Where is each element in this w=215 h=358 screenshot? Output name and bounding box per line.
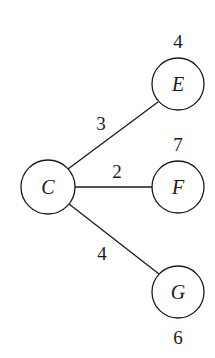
node-g-label: G bbox=[171, 281, 186, 303]
node-e-label: E bbox=[171, 73, 184, 95]
node-f-label: F bbox=[171, 176, 185, 198]
node-c: C bbox=[21, 160, 75, 214]
node-g-value: 6 bbox=[173, 327, 183, 348]
node-e: 4 E bbox=[152, 31, 204, 110]
edge-weight-c-g: 4 bbox=[97, 243, 107, 264]
node-f-value: 7 bbox=[173, 134, 183, 155]
edge-c-g bbox=[69, 204, 159, 274]
edge-c-e bbox=[68, 102, 158, 169]
edge-weight-c-e: 3 bbox=[96, 113, 106, 134]
tree-diagram: 3 2 4 C 4 E 7 F G 6 bbox=[0, 0, 215, 358]
edge-weight-c-f: 2 bbox=[112, 161, 122, 182]
node-g: G 6 bbox=[152, 266, 204, 348]
node-f: 7 F bbox=[152, 134, 204, 213]
node-e-value: 4 bbox=[173, 31, 183, 52]
node-c-label: C bbox=[41, 176, 55, 198]
